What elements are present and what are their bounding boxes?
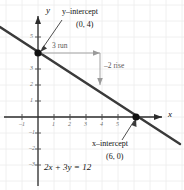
x-tick-label: 3 bbox=[84, 121, 87, 127]
run-guide bbox=[38, 50, 100, 56]
y-tick-label: –3 bbox=[29, 161, 35, 167]
x-axis-label: x bbox=[168, 110, 172, 119]
x-tick-label: –1 bbox=[19, 121, 25, 127]
run-label: 3 run bbox=[52, 42, 68, 50]
y-tick-label: 5 bbox=[30, 33, 33, 39]
x-intercept-label: x–intercept bbox=[92, 140, 128, 148]
y-tick-label: –2 bbox=[29, 145, 35, 151]
x-tick-label: 1 bbox=[52, 121, 55, 127]
y-intercept-label: y–intercept bbox=[62, 8, 98, 16]
equation-line bbox=[0, 27, 180, 144]
equation-label: 2x + 3y = 12 bbox=[44, 163, 91, 172]
y-tick-label: 1 bbox=[30, 97, 33, 103]
x-tick-label: 5 bbox=[116, 121, 119, 127]
y-intercept-coordinates: (0, 4) bbox=[76, 21, 93, 29]
y-tick-label: –1 bbox=[29, 129, 35, 135]
y-tick-label: 3 bbox=[30, 65, 33, 71]
x-tick-label: 4 bbox=[100, 121, 103, 127]
x-tick-label: 2 bbox=[68, 121, 71, 127]
graph-figure: y x y–intercept (0, 4) x–intercept (6, 0… bbox=[0, 0, 184, 190]
x-intercept-point bbox=[132, 113, 139, 120]
y-axis-label: y bbox=[46, 6, 50, 15]
rise-label: –2 rise bbox=[104, 62, 124, 70]
y-tick-label: 2 bbox=[30, 81, 33, 87]
y-intercept-point bbox=[34, 49, 41, 56]
x-intercept-coordinates: (6, 0) bbox=[106, 153, 123, 161]
